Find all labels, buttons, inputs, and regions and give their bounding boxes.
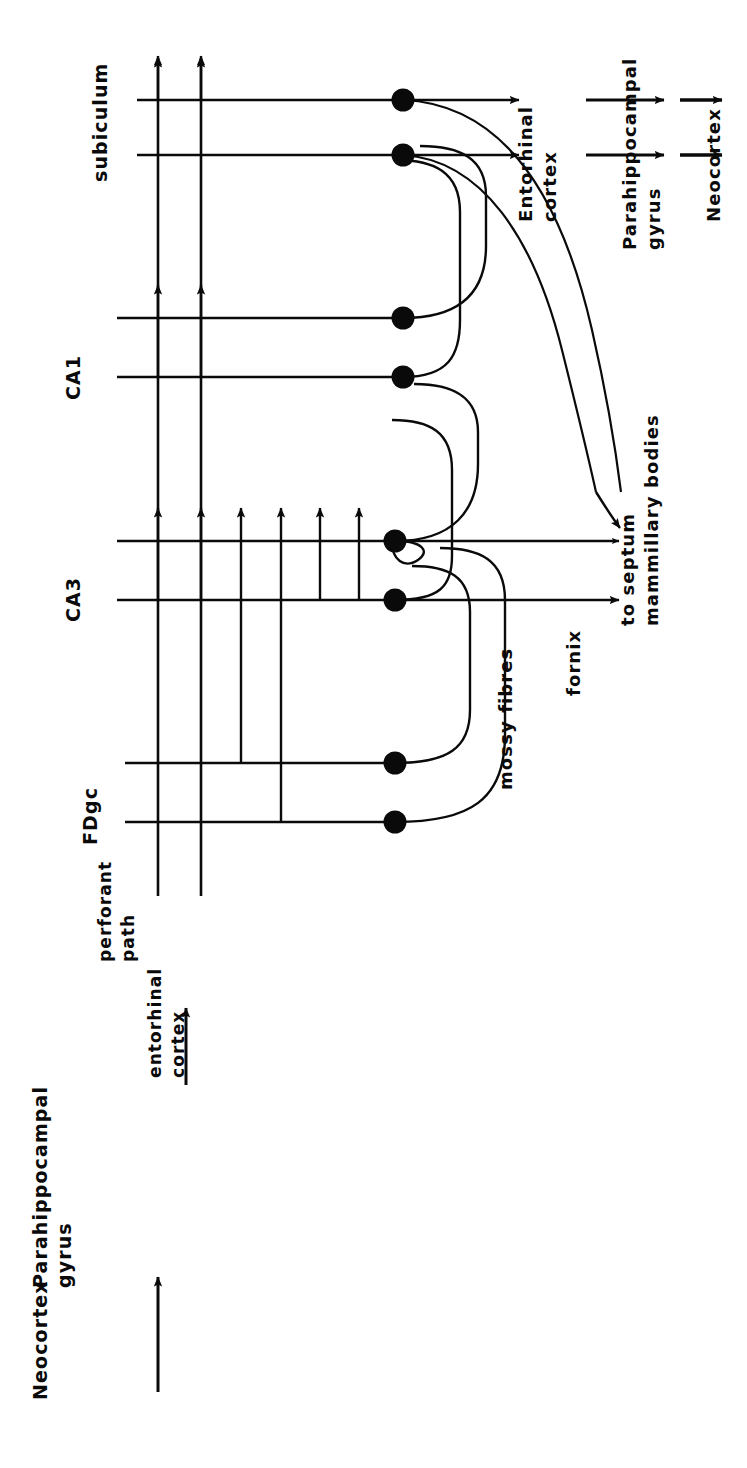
ca3-schaffer-axon-1 xyxy=(392,420,452,600)
label-fornix: fornix xyxy=(563,630,584,696)
cell-body-fdgc-1 xyxy=(384,811,407,834)
cell-body-ca1-1 xyxy=(392,366,415,389)
cell-body-group xyxy=(384,89,415,834)
subiculum-efferent-to-septum-2 xyxy=(403,155,596,492)
cell-body-ca1-2 xyxy=(392,307,415,330)
label-entorhinal-cortex-out-line1: Entorhinal xyxy=(515,106,536,222)
label-parahippocampal-gyrus-out-line1: Parahippocampal xyxy=(619,58,640,250)
hippocampal-circuit-diagram: Neocortex Parahippocampal gyrus entorhin… xyxy=(0,0,747,1468)
label-fdgc: FDgc xyxy=(79,787,101,845)
subiculum-efferent-to-septum-1 xyxy=(403,100,621,492)
label-ca3: CA3 xyxy=(62,577,84,622)
label-parahippocampal-gyrus-out-line2: gyrus xyxy=(643,187,664,250)
label-entorhinal-cortex-out-line2: cortex xyxy=(539,151,560,222)
ca3-schaffer-axon-2 xyxy=(395,384,478,541)
label-neocortex-out: Neocortex xyxy=(703,108,724,222)
ca1-axon-2 xyxy=(396,160,460,377)
label-parahippocampal-gyrus-in-line1: Parahippocampal xyxy=(29,1086,51,1288)
cell-body-subiculum-2 xyxy=(392,89,415,112)
label-perforant-path-line2: path xyxy=(118,914,138,962)
cell-body-fdgc-2 xyxy=(384,752,407,775)
label-to-septum-line1: to septum xyxy=(617,513,638,626)
label-neocortex-in: Neocortex xyxy=(29,1280,51,1400)
cell-body-subiculum-1 xyxy=(392,144,415,167)
label-to-septum-line2: mammillary bodies xyxy=(641,414,662,626)
label-parahippocampal-gyrus-in-line2: gyrus xyxy=(53,1222,75,1288)
cell-body-ca3-1 xyxy=(384,589,407,612)
label-entorhinal-cortex-in-line1: entorhinal xyxy=(145,968,165,1078)
mossy-fibre-1 xyxy=(395,548,505,822)
mossy-fibre-2 xyxy=(395,566,470,763)
diagram-canvas: Neocortex Parahippocampal gyrus entorhin… xyxy=(0,0,747,1468)
label-entorhinal-cortex-in-line2: cortex xyxy=(168,1011,188,1078)
label-mossy-fibres: mossy fibres xyxy=(495,648,516,790)
label-ca1: CA1 xyxy=(62,355,84,400)
label-perforant-path-line1: perforant xyxy=(95,861,115,962)
label-subiculum: subiculum xyxy=(89,63,111,182)
cell-body-ca3-2 xyxy=(384,530,407,553)
